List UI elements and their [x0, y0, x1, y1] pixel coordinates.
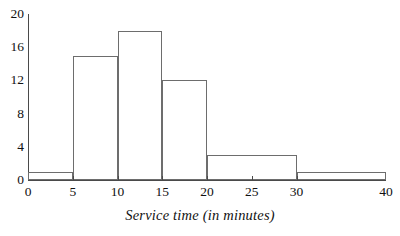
y-tick-label: 12 [0, 73, 24, 87]
y-tick-label: 16 [0, 40, 24, 54]
x-tick-label: 0 [13, 185, 43, 199]
y-tick-label: 4 [0, 140, 24, 154]
x-axis-title: Service time (in minutes) [0, 207, 400, 224]
histogram-bar [28, 172, 73, 180]
plot-area [28, 14, 386, 180]
x-tick-mark [252, 176, 253, 180]
x-tick-label: 10 [103, 185, 133, 199]
x-tick-label: 15 [147, 185, 177, 199]
y-tick-label: 8 [0, 107, 24, 121]
x-tick-label: 40 [371, 185, 400, 199]
x-axis-line [28, 180, 386, 181]
histogram-bar [297, 172, 387, 180]
y-axis-line [28, 14, 29, 181]
x-tick-mark [162, 176, 163, 180]
x-tick-label: 30 [282, 185, 312, 199]
y-tick-label: 20 [0, 7, 24, 21]
histogram-bar [118, 31, 163, 180]
x-tick-label: 20 [192, 185, 222, 199]
x-tick-mark [118, 176, 119, 180]
x-tick-mark [297, 176, 298, 180]
x-tick-label: 5 [58, 185, 88, 199]
x-tick-mark [207, 176, 208, 180]
x-tick-label: 25 [237, 185, 267, 199]
histogram-figure: 048121620 05101520253040 Service time (i… [0, 0, 400, 236]
x-tick-mark [73, 176, 74, 180]
histogram-bar [73, 56, 118, 181]
histogram-bar [162, 80, 207, 180]
